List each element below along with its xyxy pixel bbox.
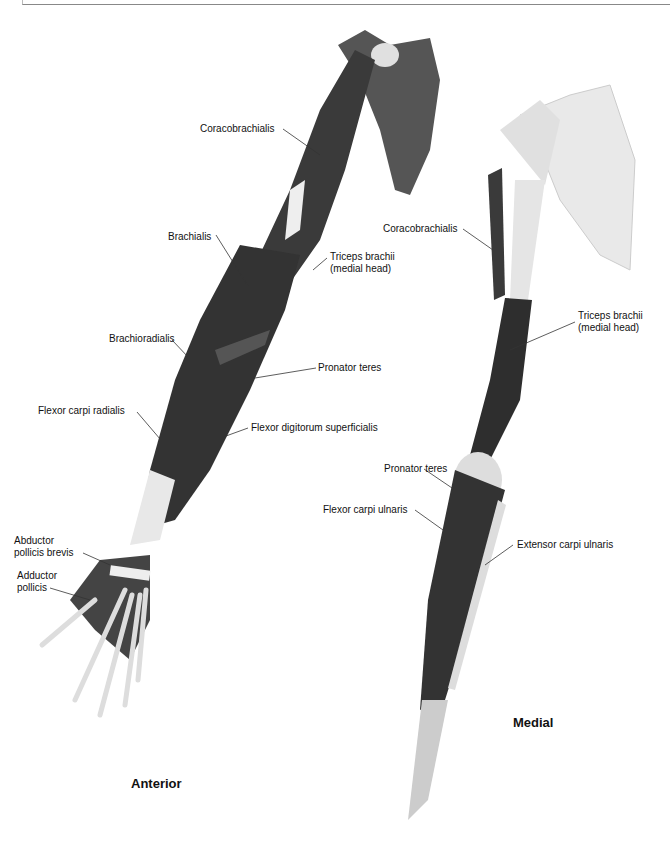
label-coracobrachialis-medial: Coracobrachialis bbox=[383, 223, 457, 235]
label-brachioradialis: Brachioradialis bbox=[109, 333, 175, 345]
label-coracobrachialis-anterior: Coracobrachialis bbox=[200, 123, 274, 135]
label-pronator-medial: Pronator teres bbox=[384, 463, 447, 475]
view-title-medial: Medial bbox=[513, 715, 553, 730]
label-flexor-digitorum-superficialis: Flexor digitorum superficialis bbox=[251, 422, 378, 434]
label-pronator-anterior: Pronator teres bbox=[318, 362, 381, 374]
label-triceps-medial: Triceps brachii(medial head) bbox=[578, 310, 643, 334]
label-brachialis: Brachialis bbox=[168, 231, 211, 243]
label-flexor-carpi-ulnaris: Flexor carpi ulnaris bbox=[323, 504, 407, 516]
view-title-anterior: Anterior bbox=[131, 776, 182, 791]
label-extensor-carpi-ulnaris: Extensor carpi ulnaris bbox=[517, 539, 613, 551]
label-triceps-anterior: Triceps brachii(medial head) bbox=[330, 251, 395, 275]
label-flexor-carpi-radialis: Flexor carpi radialis bbox=[38, 405, 125, 417]
label-adductor-pollicis: Adductorpollicis bbox=[17, 570, 57, 594]
label-abductor-pollicis-brevis: Abductorpollicis brevis bbox=[14, 535, 73, 559]
